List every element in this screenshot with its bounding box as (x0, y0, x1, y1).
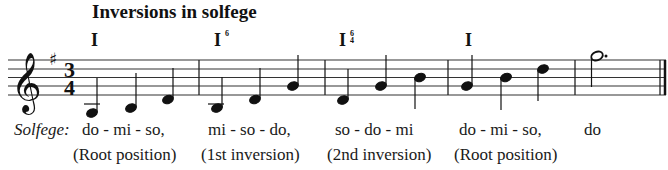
solfege-syllables-2: mi - so - do, (208, 120, 291, 140)
svg-text:♯: ♯ (49, 49, 57, 69)
position-label-1: (Root position) (73, 145, 176, 165)
position-label-2: (1st inversion) (201, 145, 300, 165)
time-signature: 3 4 (64, 57, 75, 100)
solfege-label: Solfege: (14, 120, 70, 140)
svg-text:𝄞: 𝄞 (11, 52, 42, 115)
solfege-syllables-3: so - do - mi (335, 120, 413, 140)
solfege-syllables-1: do - mi - so, (82, 120, 165, 140)
music-staff: 𝄞 ♯ 3 4 (0, 0, 668, 125)
solfege-syllables-4: do - mi - so, (459, 120, 542, 140)
position-label-3: (2nd inversion) (327, 145, 431, 165)
solfege-syllables-5: do (584, 120, 601, 140)
treble-clef-icon: 𝄞 (11, 52, 42, 115)
staff-lines (8, 60, 666, 95)
sharp-icon: ♯ (49, 49, 57, 69)
position-label-4: (Root position) (454, 145, 557, 165)
svg-text:4: 4 (64, 75, 75, 100)
